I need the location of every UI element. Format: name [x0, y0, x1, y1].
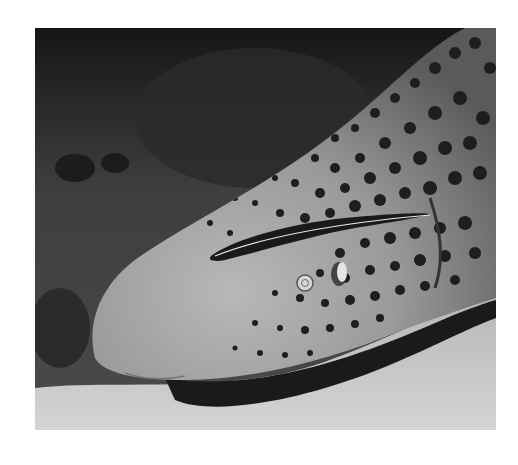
photograph — [35, 28, 496, 430]
shark-photo-illustration — [35, 28, 496, 430]
